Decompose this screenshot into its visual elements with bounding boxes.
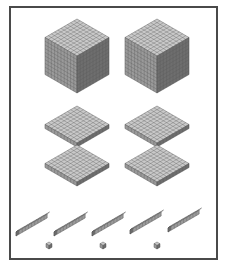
end-face xyxy=(92,230,94,236)
unit-cube-1 xyxy=(46,242,52,249)
hundred-flat-3 xyxy=(45,145,109,186)
end-face xyxy=(16,230,18,236)
thousand-cube-1 xyxy=(45,19,109,93)
unit-cube-3 xyxy=(154,242,160,249)
ten-rod-5 xyxy=(168,208,202,232)
ten-rod-4 xyxy=(130,210,164,234)
end-face xyxy=(168,226,170,232)
end-face xyxy=(130,228,132,234)
hundred-flat-1 xyxy=(45,106,109,147)
ten-rod-2 xyxy=(54,212,88,236)
ten-rod-3 xyxy=(92,212,126,236)
hundred-flat-4 xyxy=(125,145,189,186)
thousand-cube-2 xyxy=(125,19,189,93)
unit-cube-2 xyxy=(100,242,106,249)
end-face xyxy=(54,230,56,236)
hundred-flat-2 xyxy=(125,106,189,147)
base-ten-blocks-illustration xyxy=(0,0,228,269)
ten-rod-1 xyxy=(16,212,50,236)
